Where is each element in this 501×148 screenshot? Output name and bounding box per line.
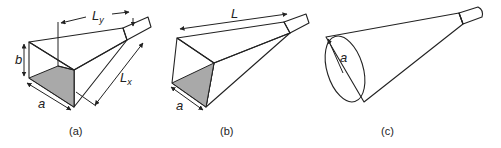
caption-b: (b) <box>220 125 233 137</box>
panel-b-sectoral-horn: L a (b) <box>171 6 309 137</box>
lx-guide-line <box>76 92 96 106</box>
label-a: a <box>340 50 347 65</box>
label-l: L <box>231 6 238 21</box>
ly-dimension-arrow <box>61 17 86 23</box>
label-a: a <box>38 96 45 111</box>
label-a: a <box>176 98 183 113</box>
lx-dimension-arrow <box>95 43 143 105</box>
label-ly: Ly <box>92 8 104 25</box>
waveguide-feed <box>284 14 309 33</box>
horn-side-face <box>206 33 290 107</box>
horn-top-face <box>29 28 127 70</box>
caption-a: (a) <box>69 125 82 137</box>
label-b: b <box>15 52 22 67</box>
waveguide-feed <box>123 17 151 40</box>
aperture-shaded <box>29 66 74 107</box>
caption-c: (c) <box>381 125 394 137</box>
horn-antenna-figure: Ly b a Lx (a) L a (b) <box>0 0 501 148</box>
label-lx: Lx <box>120 70 132 87</box>
panel-c-conical-horn: a (c) <box>318 7 483 137</box>
panel-a-pyramidal-horn: Ly b a Lx (a) <box>15 8 151 137</box>
horn-top-face <box>177 22 290 63</box>
